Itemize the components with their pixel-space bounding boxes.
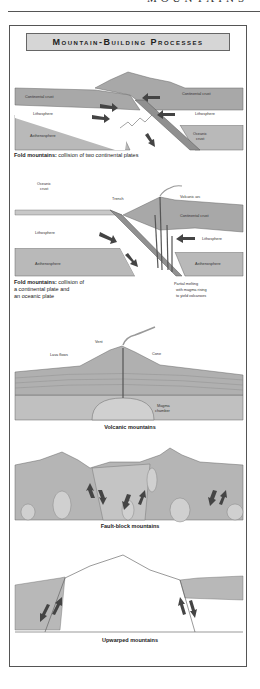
- caption-upwarped: Upwarped mountains: [0, 637, 260, 644]
- diagram-upwarped: [0, 0, 260, 689]
